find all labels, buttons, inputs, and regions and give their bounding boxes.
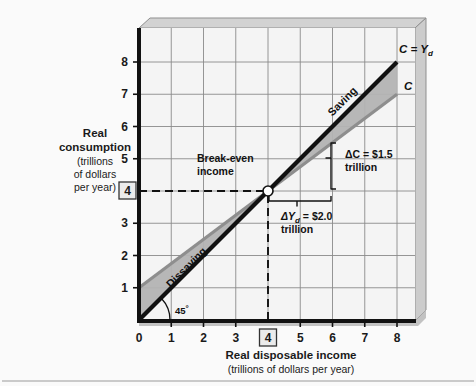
y-tick-label-4-highlighted: 4 xyxy=(124,184,131,198)
y-axis-subtitle-line2: of dollars xyxy=(74,168,117,180)
y-tick-label-3: 3 xyxy=(121,216,128,230)
x-tick-label-4-highlighted: 4 xyxy=(265,331,272,345)
x-axis-subtitle: (trillions of dollars per year) xyxy=(228,363,355,375)
curve-label-c: C xyxy=(404,80,413,92)
x-axis-title: Real disposable income xyxy=(225,349,356,361)
x-tick-label-1: 1 xyxy=(168,331,175,345)
delta-yd-label-line2: trillion xyxy=(281,223,313,235)
figure-canvas: 1 2 3 5 6 7 8 4 0 1 2 3 5 6 7 8 4 xyxy=(0,0,476,386)
delta-c-label-line1: ΔC = $1.5 xyxy=(345,148,393,160)
y-axis-subtitle-line1: (trillions xyxy=(77,155,113,167)
y-axis-title-line1: Real xyxy=(83,127,107,139)
y-tick-label-7: 7 xyxy=(121,87,128,101)
y-tick-label-2: 2 xyxy=(121,249,128,263)
box-top-bevel xyxy=(139,18,426,28)
y-tick-label-1: 1 xyxy=(121,281,128,295)
x-tick-label-2: 2 xyxy=(200,331,207,345)
x-tick-label-7: 7 xyxy=(361,331,368,345)
x-tick-label-0: 0 xyxy=(136,331,143,345)
consumption-function-chart: 1 2 3 5 6 7 8 4 0 1 2 3 5 6 7 8 4 xyxy=(0,0,476,386)
delta-c-label-line2: trillion xyxy=(345,161,377,173)
y-tick-label-6: 6 xyxy=(121,120,128,134)
y-axis-subtitle-line3: per year) xyxy=(74,181,116,193)
x-tick-label-6: 6 xyxy=(329,331,336,345)
x-tick-label-8: 8 xyxy=(394,331,401,345)
y-tick-label-8: 8 xyxy=(121,55,128,69)
breakeven-point-marker xyxy=(263,186,273,196)
box-right-bevel xyxy=(415,18,426,321)
y-axis-title-line2: consumption xyxy=(59,141,131,153)
x-tick-label-3: 3 xyxy=(232,331,239,345)
breakeven-label-line1: Break-even xyxy=(197,152,254,164)
breakeven-label-line2: income xyxy=(197,165,234,177)
y-tick-label-5: 5 xyxy=(121,152,128,166)
x-tick-label-5: 5 xyxy=(297,331,304,345)
